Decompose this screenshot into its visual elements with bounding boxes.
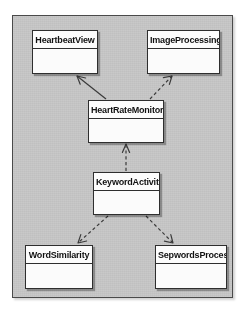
- class-body-sepwordsprocess: [156, 264, 226, 288]
- class-box-imageprocessing[interactable]: ImageProcessing: [147, 30, 220, 74]
- class-body-keywordactivity: [94, 191, 159, 214]
- class-name-heartratemonitor: HeartRateMonitor: [89, 101, 163, 119]
- relation-heartratemonitor-to-imageprocessing: [150, 76, 172, 99]
- class-box-sepwordsprocess[interactable]: SepwordsProcess: [155, 245, 227, 289]
- class-box-heartratemonitor[interactable]: HeartRateMonitor: [88, 100, 164, 143]
- class-name-imageprocessing: ImageProcessing: [148, 31, 219, 49]
- class-name-wordsimilarity: WordSimilarity: [26, 246, 92, 264]
- class-box-keywordactivity[interactable]: KeywordActivity: [93, 172, 160, 215]
- class-body-heartratemonitor: [89, 119, 163, 142]
- class-name-heartbeatview: HeartbeatView: [33, 31, 97, 49]
- relation-keywordactivity-to-heartratemonitor: [122, 144, 129, 171]
- class-box-heartbeatview[interactable]: HeartbeatView: [32, 30, 98, 74]
- relation-keywordactivity-to-sepwordsprocess: [146, 216, 173, 243]
- uml-class-diagram: HeartbeatView ImageProcessing HeartRateM…: [0, 0, 250, 313]
- class-box-wordsimilarity[interactable]: WordSimilarity: [25, 245, 93, 289]
- class-body-imageprocessing: [148, 49, 219, 73]
- class-name-keywordactivity: KeywordActivity: [94, 173, 159, 191]
- relation-heartratemonitor-to-heartbeatview: [77, 76, 106, 99]
- relation-keywordactivity-to-wordsimilarity: [78, 216, 108, 243]
- class-body-heartbeatview: [33, 49, 97, 73]
- class-body-wordsimilarity: [26, 264, 92, 288]
- class-name-sepwordsprocess: SepwordsProcess: [156, 246, 226, 264]
